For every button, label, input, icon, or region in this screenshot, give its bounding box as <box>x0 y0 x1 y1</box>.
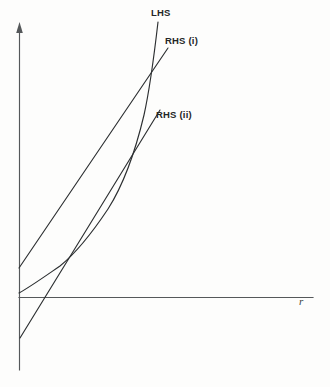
series-label-rhs-ii: RHS (ii) <box>156 110 192 120</box>
figure-container: LHS RHS (i) RHS (ii) r <box>0 0 330 387</box>
series-rhs-i-line <box>19 48 168 268</box>
series-group <box>19 22 168 338</box>
axes-group <box>16 22 313 370</box>
series-label-rhs-i: RHS (i) <box>165 36 198 46</box>
series-label-lhs: LHS <box>151 8 171 18</box>
figure-plot-area <box>0 0 330 387</box>
series-lhs-curve <box>19 22 158 293</box>
series-rhs-ii-line <box>20 110 160 338</box>
x-axis-label: r <box>299 296 303 307</box>
y-axis-arrowhead <box>16 22 23 33</box>
